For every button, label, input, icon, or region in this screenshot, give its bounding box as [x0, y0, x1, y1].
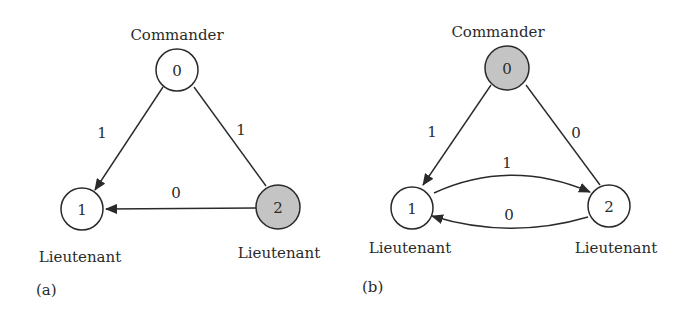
edge-label-0-2: 1 [236, 121, 246, 139]
commander-label: Commander [130, 26, 224, 44]
lieutenant-2-label: Lieutenant [238, 244, 321, 262]
node-0: 0 [156, 49, 198, 91]
svg-text:1: 1 [407, 200, 417, 218]
commander-label: Commander [451, 23, 545, 41]
edge-1-to-2 [434, 175, 590, 193]
edge-label-2-1: 0 [504, 206, 514, 224]
panel-b: Commander 1 0 1 0 0 1 2 Lieutenant Lieut… [362, 23, 657, 296]
svg-text:1: 1 [77, 201, 87, 219]
edge-0-to-2 [194, 87, 266, 186]
panel-a: Commander 1 1 0 0 1 2 Lieutenant Lieuten… [36, 26, 320, 299]
svg-text:2: 2 [604, 198, 614, 216]
lieutenant-1-label: Lieutenant [369, 239, 452, 257]
node-1: 1 [391, 187, 433, 229]
node-1: 1 [61, 188, 103, 230]
caption-b: (b) [362, 278, 383, 296]
lieutenant-1-label: Lieutenant [39, 248, 122, 266]
edge-label-0-2: 0 [571, 124, 581, 142]
edge-2-to-1 [106, 208, 256, 209]
edge-label-0-1: 1 [427, 123, 437, 141]
edge-0-to-2 [526, 85, 600, 185]
node-2-faulty: 2 [256, 185, 300, 229]
svg-text:0: 0 [502, 60, 512, 78]
edge-label-1-2: 1 [502, 154, 512, 172]
svg-text:0: 0 [172, 62, 182, 80]
node-2: 2 [588, 185, 630, 227]
lieutenant-2-label: Lieutenant [575, 239, 658, 257]
byzantine-generals-diagram: Commander 1 1 0 0 1 2 Lieutenant Lieuten… [0, 0, 694, 315]
svg-text:2: 2 [273, 199, 283, 217]
edge-label-2-1: 0 [171, 184, 181, 202]
edge-label-0-1: 1 [97, 124, 107, 142]
node-0-faulty: 0 [485, 46, 529, 90]
caption-a: (a) [36, 281, 57, 299]
